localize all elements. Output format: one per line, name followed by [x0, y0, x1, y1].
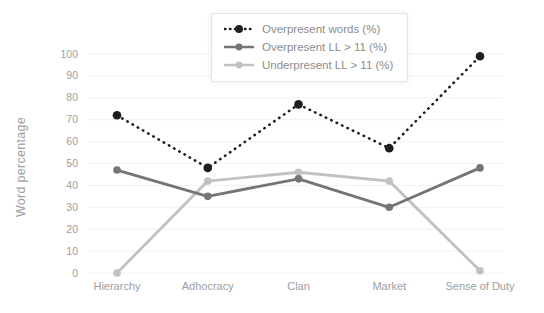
y-tick-label: 70: [66, 113, 78, 125]
x-tick-label: Market: [372, 280, 406, 292]
data-point-marker: [113, 269, 121, 277]
data-point-marker: [295, 175, 303, 183]
y-tick-label: 50: [66, 157, 78, 169]
data-point-marker: [385, 144, 394, 153]
data-point-marker: [113, 166, 121, 174]
data-point-marker: [476, 267, 484, 275]
y-tick-label: 0: [72, 267, 78, 279]
legend-dot: [236, 62, 243, 69]
data-point-marker: [113, 111, 122, 120]
x-tick-label: Adhocracy: [182, 280, 234, 292]
legend-marker-icon: [224, 60, 254, 70]
legend-label: Underpresent LL > 11 (%): [262, 58, 393, 72]
y-tick-label: 90: [66, 69, 78, 81]
y-tick-label: 80: [66, 91, 78, 103]
data-point-marker: [385, 177, 393, 185]
x-tick-label: Clan: [287, 280, 310, 292]
series-line: [117, 172, 480, 273]
legend-item-2: Underpresent LL > 11 (%): [224, 58, 393, 72]
x-tick-label: Sense of Duty: [445, 280, 515, 292]
legend-marker-icon: [224, 42, 254, 52]
legend-label: Overpresent LL > 11 (%): [262, 40, 387, 54]
data-point-marker: [203, 164, 212, 173]
data-point-marker: [294, 100, 303, 109]
legend-dot: [235, 25, 243, 33]
y-tick-label: 40: [66, 179, 78, 191]
y-tick-label: 60: [66, 135, 78, 147]
y-axis-title: Word percentage: [14, 97, 30, 237]
chart-legend: Overpresent words (%)Overpresent LL > 11…: [211, 13, 408, 82]
legend-label: Overpresent words (%): [262, 22, 380, 36]
y-tick-label: 20: [66, 223, 78, 235]
chart: 0102030405060708090100HierarchyAdhocracy…: [0, 0, 544, 313]
legend-item-1: Overpresent LL > 11 (%): [224, 40, 393, 54]
y-axis-tick-labels: 0102030405060708090100: [60, 48, 78, 279]
y-tick-label: 100: [60, 48, 78, 60]
legend-marker-icon: [224, 24, 254, 34]
data-point-marker: [476, 52, 485, 61]
legend-dot: [236, 44, 243, 51]
data-point-marker: [204, 177, 212, 185]
y-tick-label: 10: [66, 245, 78, 257]
y-tick-label: 30: [66, 201, 78, 213]
data-point-marker: [385, 204, 393, 212]
x-tick-label: Hierarchy: [93, 280, 141, 292]
x-axis-category-labels: HierarchyAdhocracyClanMarketSense of Dut…: [93, 280, 515, 292]
legend-item-0: Overpresent words (%): [224, 22, 393, 36]
data-point-marker: [476, 164, 484, 172]
data-point-marker: [295, 168, 303, 176]
data-point-marker: [204, 193, 212, 201]
